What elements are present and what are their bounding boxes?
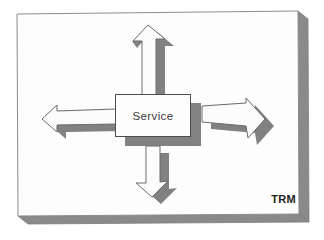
- slab-right-edge: [298, 11, 309, 222]
- service-box-label: Service: [132, 110, 173, 122]
- diagram-stage: Service TRM: [0, 0, 324, 240]
- trm-label: TRM: [268, 193, 296, 205]
- service-box: Service: [115, 94, 191, 137]
